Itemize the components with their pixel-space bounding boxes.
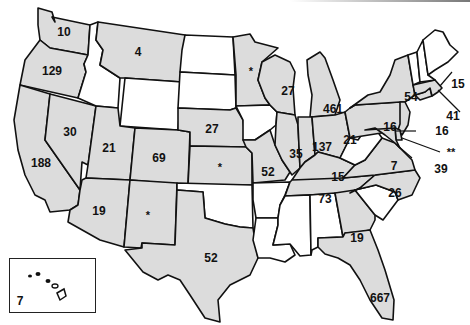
state-ND[interactable] (180, 35, 235, 75)
label-DE: ** (447, 147, 456, 158)
label-UT: 21 (102, 142, 115, 154)
label-NE: 27 (205, 123, 218, 135)
label-CT: 41 (446, 110, 459, 122)
state-ME[interactable] (423, 30, 458, 75)
label-MT: 4 (135, 46, 142, 58)
label-KS: * (218, 162, 222, 173)
label-PA: 16 (383, 121, 396, 133)
label-OR: 129 (42, 65, 62, 77)
label-IL: 35 (289, 148, 302, 160)
label-KY: 15 (331, 171, 344, 183)
label-HI: 7 (17, 295, 24, 307)
label-MO: 52 (261, 166, 274, 178)
label-WI: 27 (281, 85, 294, 97)
label-NJ: 16 (435, 125, 448, 137)
label-IN: 137 (312, 141, 332, 153)
label-MA: 15 (451, 78, 464, 90)
label-OH: 21 (343, 134, 356, 146)
state-WY[interactable] (120, 78, 182, 130)
state-SD[interactable] (178, 72, 236, 110)
label-TX: 52 (204, 252, 217, 264)
label-NC: 26 (388, 187, 401, 199)
label-NY: 54 (404, 91, 417, 103)
state-NM[interactable] (124, 180, 177, 248)
label-FL: 667 (370, 292, 390, 304)
label-WA: 10 (57, 26, 70, 38)
label-VA: 7 (391, 160, 398, 172)
leader-line-ma (440, 72, 452, 86)
label-NV: 30 (63, 126, 76, 138)
label-MI: 461 (323, 103, 343, 115)
label-NM: * (146, 210, 150, 221)
label-MD: 39 (434, 163, 447, 175)
label-AZ: 19 (92, 205, 105, 217)
label-CO: 69 (152, 152, 165, 164)
label-TN: 73 (318, 193, 331, 205)
label-GA: 19 (350, 232, 363, 244)
label-MN: * (249, 66, 253, 77)
label-CA: 188 (31, 157, 51, 169)
leader-line-de (402, 138, 440, 152)
